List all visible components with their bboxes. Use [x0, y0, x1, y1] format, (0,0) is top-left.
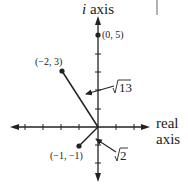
real-axis-label-line1: real: [156, 116, 178, 131]
point-label-neg1-neg1: (−1, −1): [50, 151, 83, 161]
imaginary-axis-label: i axis: [82, 2, 114, 17]
sqrt2-radicand: 2: [120, 149, 127, 162]
point-0-5: [95, 32, 100, 37]
segment-to-neg2-3: [62, 71, 98, 127]
imaginary-axis-word: axis: [86, 1, 114, 17]
sqrt13-pointer-arrow: [86, 86, 114, 94]
point-label-0-5: (0, 5): [102, 30, 124, 40]
complex-plane-diagram: [0, 0, 188, 189]
point-neg2-3: [59, 68, 64, 73]
point-label-neg2-3: (−2, 3): [35, 57, 62, 67]
real-axis-label-line2: axis: [156, 132, 180, 147]
imaginary-axis: [95, 16, 101, 182]
real-axis: [10, 124, 150, 130]
sqrt13-radicand: 13: [119, 81, 132, 94]
segment-to-neg1-neg1: [80, 127, 98, 145]
point-neg1-neg1: [76, 143, 81, 148]
